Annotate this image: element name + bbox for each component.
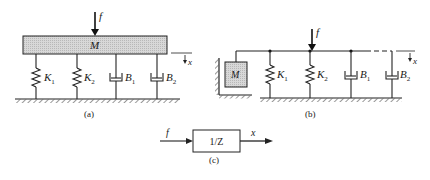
damper-b1-b <box>345 51 357 98</box>
spring-label-k2-a: K2 <box>83 71 95 86</box>
force-arrow-a <box>91 12 99 36</box>
force-arrow-b <box>308 29 316 51</box>
damper-label-b2-b: B2 <box>400 68 411 83</box>
mechanical-system-diagram: f M x K1 K2 B1 <box>0 0 430 180</box>
spring-k2-a <box>73 54 81 99</box>
displacement-label-a: x <box>187 57 192 67</box>
output-label-c: x <box>250 127 256 138</box>
spring-k2-b <box>306 51 314 98</box>
displacement-label-b: x <box>412 56 417 66</box>
damper-b1-a <box>110 54 122 99</box>
spring-k1-b <box>266 51 274 98</box>
damper-label-b1-b: B1 <box>360 68 371 83</box>
force-label-a: f <box>99 10 104 22</box>
caption-c: (c) <box>209 155 219 165</box>
force-label-b: f <box>316 26 321 38</box>
damper-b2-a <box>151 54 163 99</box>
mass-label-b: M <box>230 69 240 80</box>
damper-b2-b <box>386 51 398 98</box>
spring-k1-a <box>32 54 40 99</box>
caption-b: (b) <box>305 109 316 119</box>
panel-c: f 1/Z x (c) <box>160 127 273 165</box>
mass-label-a: M <box>89 39 100 51</box>
caption-a: (a) <box>84 109 94 119</box>
input-label-c: f <box>166 127 170 138</box>
damper-label-b1-a: B1 <box>125 71 136 86</box>
damper-label-b2-a: B2 <box>166 71 177 86</box>
top-node-line-b <box>236 51 392 62</box>
output-arrow-c <box>240 138 273 144</box>
panel-b: M f x K1 <box>215 26 417 119</box>
panel-a: f M x K1 K2 B1 <box>15 10 192 119</box>
spring-label-k1-a: K1 <box>43 71 55 86</box>
spring-label-k2-b: K2 <box>316 68 328 83</box>
spring-label-k1-b: K1 <box>276 68 288 83</box>
ground-a <box>15 99 180 103</box>
input-arrow-c <box>160 138 193 144</box>
block-label-c: 1/Z <box>210 136 224 147</box>
ground-b <box>260 98 402 102</box>
